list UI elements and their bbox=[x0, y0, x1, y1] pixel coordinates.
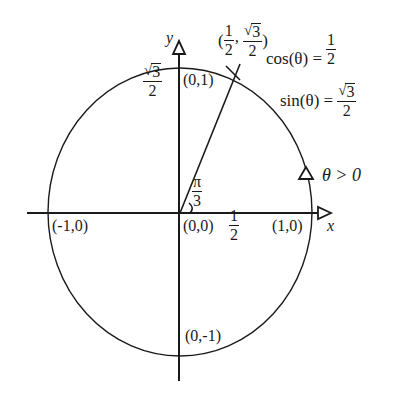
y-tick-denominator: 2 bbox=[149, 82, 157, 99]
y-axis-label: y bbox=[166, 30, 173, 46]
point-neg1-0-label: (-1,0) bbox=[52, 218, 88, 234]
sin-den: 2 bbox=[343, 102, 351, 119]
point-y-den: 2 bbox=[249, 42, 257, 59]
sin-frac: √3 2 bbox=[337, 82, 356, 119]
sin-equation: sin(θ) = √3 2 bbox=[280, 82, 356, 119]
x-tick-numerator: 1 bbox=[229, 208, 239, 226]
point-x-den: 2 bbox=[225, 41, 233, 58]
y-axis-arrow-icon bbox=[173, 41, 185, 54]
origin-label: (0,0) bbox=[183, 218, 214, 234]
cos-den: 2 bbox=[327, 50, 335, 67]
cos-lhs: cos(θ) = bbox=[266, 50, 322, 67]
direction-text: θ > 0 bbox=[322, 165, 361, 185]
y-tick-sqrt3-over-2: √3 2 bbox=[143, 62, 162, 99]
cos-frac: 1 2 bbox=[326, 32, 336, 67]
sin-lhs: sin(θ) = bbox=[280, 92, 333, 109]
y-tick-radicand: 3 bbox=[151, 63, 161, 80]
direction-triangle-icon bbox=[299, 167, 313, 179]
direction-label: θ > 0 bbox=[322, 166, 361, 184]
point-0-1-label: (0,1) bbox=[183, 72, 214, 88]
sin-radicand: 3 bbox=[345, 83, 355, 100]
comma: , bbox=[235, 28, 239, 59]
point-0-neg1-label: (0,-1) bbox=[185, 328, 221, 344]
point-coordinate-label: ( 1 2 , √3 2 ) bbox=[218, 22, 268, 59]
x-axis-label: x bbox=[327, 218, 334, 234]
cos-num: 1 bbox=[326, 32, 336, 50]
point-x-num: 1 bbox=[224, 23, 234, 41]
x-tick-half: 1 2 bbox=[229, 208, 239, 243]
angle-numerator: π bbox=[192, 174, 202, 192]
angle-denominator: 3 bbox=[193, 192, 201, 209]
point-y-frac: √3 2 bbox=[243, 22, 262, 59]
point-1-0-label: (1,0) bbox=[272, 218, 303, 234]
angle-label: π 3 bbox=[192, 174, 202, 209]
x-tick-denominator: 2 bbox=[230, 226, 238, 243]
point-y-radicand: 3 bbox=[251, 23, 261, 40]
cos-equation: cos(θ) = 1 2 bbox=[266, 32, 336, 67]
point-x-frac: 1 2 bbox=[224, 23, 234, 58]
